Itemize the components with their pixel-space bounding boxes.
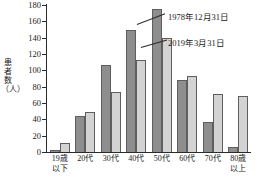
x-axis-tick-label: 40代 — [124, 154, 150, 174]
bar — [238, 96, 248, 152]
bar — [136, 60, 146, 152]
x-axis-tick-label: 20代 — [73, 154, 99, 174]
y-axis-tick-label: 60 — [3, 99, 41, 108]
bar-group — [124, 5, 150, 152]
y-axis-tick-label: 80 — [3, 83, 41, 92]
bar — [60, 143, 70, 152]
bar — [177, 80, 187, 152]
y-axis-tick-label: 0 — [3, 148, 41, 157]
y-axis-tick-label: 140 — [3, 34, 41, 43]
bar — [75, 116, 85, 152]
y-axis-tick — [42, 119, 46, 120]
bar-group — [226, 5, 252, 152]
bar-group — [200, 5, 226, 152]
bar — [50, 150, 60, 152]
bar — [162, 38, 172, 152]
y-axis-tick — [42, 54, 46, 55]
bar-group — [73, 5, 99, 152]
bar — [203, 122, 213, 152]
y-axis-tick — [42, 136, 46, 137]
bar — [126, 30, 136, 153]
x-axis-tick-label: 19歳 以下 — [47, 154, 73, 174]
y-axis-tick — [42, 5, 46, 6]
bar-group — [175, 5, 201, 152]
x-axis-tick-label: 70代 — [200, 154, 226, 174]
bar — [213, 94, 223, 152]
y-axis-tick-label: 20 — [3, 132, 41, 141]
y-axis-tick-label: 100 — [3, 66, 41, 75]
y-axis-tick-label: 120 — [3, 50, 41, 59]
y-axis-tick — [42, 103, 46, 104]
y-axis-tick-label: 160 — [3, 17, 41, 26]
y-axis-tick-labels: 020406080100120140160180 — [0, 0, 41, 185]
x-axis-tick-label: 80歳 以上 — [226, 154, 252, 174]
bar — [152, 9, 162, 152]
bar-group — [98, 5, 124, 152]
y-axis-tick-label: 180 — [3, 1, 41, 10]
bar — [187, 76, 197, 152]
bar — [228, 147, 238, 152]
y-axis-tick — [42, 21, 46, 22]
bar — [101, 65, 111, 152]
x-axis-tick-label: 30代 — [98, 154, 124, 174]
y-axis-tick — [42, 70, 46, 71]
legend-label-2019: 2019年3月31日 — [168, 38, 225, 48]
bar — [85, 112, 95, 152]
y-axis-tick — [42, 87, 46, 88]
bar-chart: 患者数（人） 020406080100120140160180 19歳 以下20… — [0, 0, 259, 185]
x-axis-line — [46, 152, 251, 153]
x-axis-tick-label: 50代 — [149, 154, 175, 174]
y-axis-tick — [42, 152, 46, 153]
bar-group — [47, 5, 73, 152]
y-axis-tick-label: 40 — [3, 115, 41, 124]
bar-group — [149, 5, 175, 152]
bar-groups — [47, 5, 251, 152]
bar — [111, 92, 121, 152]
y-axis-tick — [42, 38, 46, 39]
x-axis-tick-labels: 19歳 以下20代30代40代50代60代70代80歳 以上 — [47, 154, 251, 174]
legend-label-1978: 1978年12月31日 — [168, 12, 229, 22]
x-axis-tick-label: 60代 — [175, 154, 201, 174]
